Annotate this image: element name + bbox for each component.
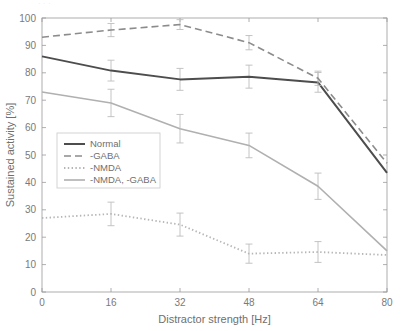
y-tick-label: 0 <box>30 287 36 298</box>
y-tick-label: 90 <box>25 40 37 51</box>
legend-label-0: Normal <box>90 138 121 149</box>
y-tick-label: 40 <box>25 177 37 188</box>
y-tick-label: 60 <box>25 122 37 133</box>
x-tick-label: 0 <box>39 297 45 308</box>
x-axis-title: Distractor strength [Hz] <box>158 313 270 325</box>
y-tick-label: 50 <box>25 150 37 161</box>
chart-plot: 010203040506070809010001632486480Distrac… <box>0 0 402 331</box>
x-tick-label: 48 <box>243 297 255 308</box>
x-tick-label: 64 <box>312 297 324 308</box>
y-tick-label: 30 <box>25 204 37 215</box>
y-tick-label: 10 <box>25 259 37 270</box>
series-line <box>42 214 387 255</box>
legend-label-1: -GABA <box>90 150 120 161</box>
x-tick-label: 32 <box>174 297 186 308</box>
y-tick-label: 100 <box>19 13 36 24</box>
y-tick-label: 20 <box>25 232 37 243</box>
legend-label-3: -NMDA, -GABA <box>90 174 157 185</box>
figure-container: · · · 010203040506070809010001632486480D… <box>0 0 402 331</box>
y-tick-label: 80 <box>25 67 37 78</box>
legend: Normal-GABA-NMDA-NMDA, -GABA <box>57 133 160 188</box>
series-nmda <box>42 202 387 263</box>
x-tick-label: 80 <box>381 297 393 308</box>
x-tick-label: 16 <box>105 297 117 308</box>
y-tick-label: 70 <box>25 95 37 106</box>
legend-label-2: -NMDA <box>90 162 122 173</box>
y-axis-title: Sustained activity [%] <box>4 103 16 208</box>
